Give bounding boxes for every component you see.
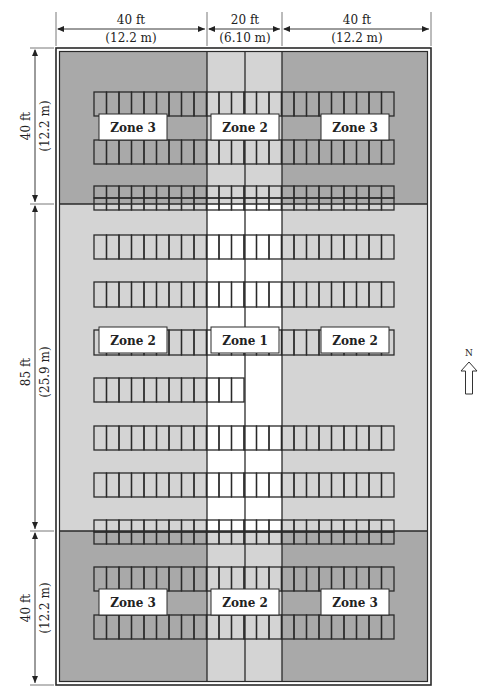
dim-west-ft: 40 ft bbox=[117, 13, 146, 27]
dim-middle-m: (25.9 m) bbox=[38, 346, 52, 397]
zone-label: Zone 3 bbox=[99, 589, 167, 615]
zone-label-text: Zone 2 bbox=[110, 334, 156, 348]
zone-label: Zone 3 bbox=[321, 589, 389, 615]
north-label: N bbox=[465, 348, 473, 358]
top-dimensions: 40 ft (12.2 m) 20 ft (6.10 m) 40 ft (12.… bbox=[56, 12, 431, 46]
zone-label-text: Zone 2 bbox=[332, 334, 378, 348]
zone-label: Zone 2 bbox=[211, 114, 279, 140]
zone-label-text: Zone 3 bbox=[332, 596, 378, 610]
dim-south-ft: 40 ft bbox=[19, 594, 33, 623]
zone-label-text: Zone 2 bbox=[222, 596, 268, 610]
dim-middle-ft: 85 ft bbox=[19, 358, 33, 387]
dim-center-m: (6.10 m) bbox=[219, 31, 270, 45]
zone-label: Zone 3 bbox=[99, 114, 167, 140]
zone-label: Zone 2 bbox=[211, 589, 279, 615]
zone-label-text: Zone 3 bbox=[110, 596, 156, 610]
left-dimensions: 40 ft (12.2 m) 85 ft (25.9 m) 40 ft (12.… bbox=[19, 48, 54, 685]
zone-label-text: Zone 1 bbox=[222, 334, 268, 348]
dim-north-ft: 40 ft bbox=[19, 112, 33, 141]
zone-area bbox=[59, 204, 207, 531]
zone-label-text: Zone 3 bbox=[332, 121, 378, 135]
zone-label: Zone 1 bbox=[211, 327, 279, 353]
north-arrow: N bbox=[461, 348, 477, 394]
dim-west-m: (12.2 m) bbox=[105, 31, 156, 45]
parking-zone-diagram: Zone 3Zone 2Zone 3Zone 2Zone 1Zone 2Zone… bbox=[0, 0, 498, 700]
zone-area bbox=[282, 204, 428, 531]
dim-center-ft: 20 ft bbox=[231, 13, 260, 27]
zone-label: Zone 2 bbox=[321, 327, 389, 353]
zone-label-text: Zone 2 bbox=[222, 121, 268, 135]
dim-south-m: (12.2 m) bbox=[38, 582, 52, 633]
dim-east-ft: 40 ft bbox=[343, 13, 372, 27]
dim-north-m: (12.2 m) bbox=[38, 100, 52, 151]
north-arrow-icon bbox=[461, 362, 477, 394]
zone-label: Zone 3 bbox=[321, 114, 389, 140]
zone-label: Zone 2 bbox=[99, 327, 167, 353]
zone-label-text: Zone 3 bbox=[110, 121, 156, 135]
dim-east-m: (12.2 m) bbox=[331, 31, 382, 45]
